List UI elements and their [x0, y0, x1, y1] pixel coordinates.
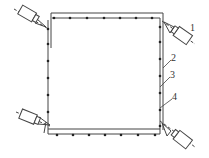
label-4: 4: [172, 92, 177, 102]
outer-frame: [51, 13, 163, 130]
inner-frame: [48, 18, 160, 134]
nozzle-icon-bottom-right: [160, 121, 195, 149]
diagram-svg: [0, 0, 209, 158]
label-2: 2: [171, 53, 176, 63]
label-1: 1: [190, 23, 195, 33]
leader-lines: [160, 60, 172, 108]
diagram-canvas: 1 2 3 4: [0, 0, 209, 158]
nozzle-icon-bottom-left: [16, 109, 50, 133]
label-3: 3: [170, 70, 175, 80]
nozzle-icon-top-left: [14, 5, 47, 28]
